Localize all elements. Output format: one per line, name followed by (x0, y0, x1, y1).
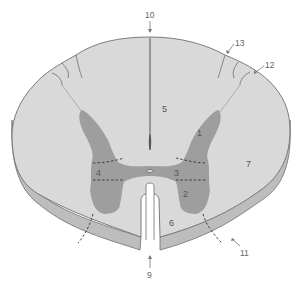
arrow-11 (233, 240, 240, 246)
label-4: 4 (96, 168, 101, 178)
anterior-median-fissure (146, 183, 154, 240)
septum-end (149, 134, 151, 150)
label-7: 7 (246, 159, 251, 169)
spinal-cord-diagram: 1 2 3 4 5 6 7 10 9 13 12 11 (0, 0, 302, 287)
arrow-13 (228, 44, 234, 52)
central-canal (147, 169, 153, 172)
label-11: 11 (240, 248, 249, 258)
label-3: 3 (174, 168, 179, 178)
arrow-9-head (148, 255, 152, 259)
label-1: 1 (197, 128, 202, 138)
arrow-10-head (148, 29, 152, 33)
arrow-12 (256, 66, 264, 72)
label-13: 13 (235, 38, 245, 48)
label-6: 6 (169, 218, 174, 228)
arrow-11-head (231, 238, 235, 241)
label-9: 9 (147, 270, 152, 280)
label-2: 2 (183, 189, 188, 199)
label-10: 10 (145, 10, 155, 20)
label-5: 5 (162, 104, 167, 114)
label-12: 12 (265, 60, 275, 70)
